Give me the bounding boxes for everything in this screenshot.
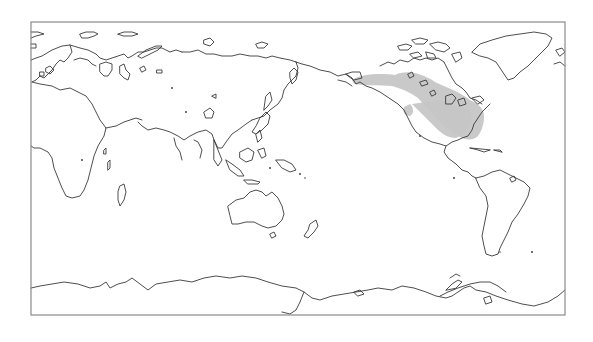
- caspian-sea: [120, 64, 130, 80]
- asia: [138, 38, 298, 166]
- tasmania: [270, 232, 276, 238]
- sakhalin: [264, 92, 272, 110]
- greenland: [472, 32, 565, 80]
- madagascar: [118, 184, 126, 206]
- map-canvas: [0, 0, 593, 342]
- new-guinea: [276, 160, 296, 172]
- australia: [228, 190, 318, 238]
- south-america: [476, 170, 533, 256]
- black-sea: [100, 62, 112, 76]
- cuba: [470, 148, 490, 152]
- europe: [31, 32, 182, 82]
- shaded-region: [352, 72, 484, 139]
- sulawesi: [258, 148, 266, 158]
- shaded-area-pacific-northwest: [403, 104, 413, 116]
- borneo: [240, 148, 254, 162]
- map-frame: [31, 22, 565, 315]
- kamchatka: [290, 68, 298, 84]
- iceland: [556, 48, 565, 56]
- sumatra: [226, 160, 244, 176]
- world-map: [0, 0, 593, 342]
- new-zealand: [304, 220, 318, 238]
- antarctica: [31, 274, 565, 314]
- africa: [31, 82, 142, 206]
- franz-josef-land: [118, 32, 138, 36]
- japan: [252, 112, 270, 134]
- svalbard: [80, 32, 98, 38]
- java: [244, 180, 260, 184]
- maritime-southeast-asia: [226, 130, 306, 184]
- indochina: [214, 140, 222, 166]
